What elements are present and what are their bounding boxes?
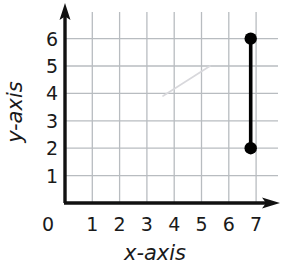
x-tick-label-1: 1 [86, 213, 98, 235]
y-tick-label-6: 6 [46, 28, 58, 50]
chart-container: 6 5 4 3 2 1 0 1 2 3 4 5 6 7 y-axis x-axi… [0, 0, 285, 266]
x-tick-label-7: 7 [250, 213, 262, 235]
y-tick-label-4: 4 [46, 82, 58, 104]
x-tick-label-5: 5 [195, 213, 207, 235]
x-tick-label-4: 4 [168, 213, 180, 235]
x-tick-label-6: 6 [223, 213, 235, 235]
y-tick-label-3: 3 [46, 110, 58, 132]
x-axis-title: x-axis [123, 241, 186, 265]
x-tick-label-3: 3 [141, 213, 153, 235]
y-axis-title: y-axis [3, 81, 27, 143]
data-point-lower[interactable] [245, 142, 257, 154]
x-tick-label-0: 0 [42, 213, 54, 235]
x-tick-label-2: 2 [114, 213, 126, 235]
data-point-upper[interactable] [245, 32, 257, 44]
y-tick-label-5: 5 [46, 55, 58, 77]
y-tick-label-2: 2 [46, 137, 58, 159]
y-tick-label-1: 1 [46, 165, 58, 187]
coordinate-plane-chart: 6 5 4 3 2 1 0 1 2 3 4 5 6 7 y-axis x-axi… [0, 0, 285, 266]
